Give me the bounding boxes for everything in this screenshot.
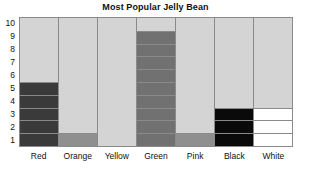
plot-cell-empty — [59, 44, 97, 57]
x-tick-label-red: Red — [19, 149, 58, 169]
plot-cell-empty — [215, 82, 253, 95]
plot-cell-empty — [176, 44, 214, 57]
plot-cell-empty — [254, 95, 292, 108]
bar-segment — [137, 108, 175, 121]
x-tick-label-pink: Pink — [176, 149, 215, 169]
y-tick-label-3: 3 — [0, 110, 15, 119]
plot-cell-empty — [59, 56, 97, 69]
plot-cell-empty — [176, 95, 214, 108]
bar-column-yellow — [98, 18, 137, 146]
plot-cell-empty — [98, 108, 136, 121]
plot-cell-empty — [254, 56, 292, 69]
bar-segment — [254, 133, 292, 146]
plot-cell-empty — [98, 120, 136, 133]
plot-cell-empty — [98, 56, 136, 69]
x-tick-label-white: White — [254, 149, 293, 169]
y-tick-label-4: 4 — [0, 97, 15, 106]
plot-cell-empty — [59, 120, 97, 133]
bar-segment — [59, 133, 97, 146]
bar-column-red — [20, 18, 59, 146]
plot-cell-empty — [254, 82, 292, 95]
plot-cell-empty — [176, 82, 214, 95]
plot-cell-empty — [98, 44, 136, 57]
bar-segment — [20, 133, 58, 146]
bar-column-white — [254, 18, 292, 146]
plot-cell-empty — [215, 95, 253, 108]
bar-segment — [20, 120, 58, 133]
y-tick-label-10: 10 — [0, 19, 15, 28]
y-axis: 10987654321 — [0, 17, 17, 147]
plot-cell-empty — [20, 69, 58, 82]
plot-cell-empty — [254, 18, 292, 31]
x-axis: RedOrangeYellowGreenPinkBlackWhite — [19, 149, 293, 169]
x-tick-label-yellow: Yellow — [97, 149, 136, 169]
plot-cell-empty — [176, 120, 214, 133]
plot-cell-empty — [59, 69, 97, 82]
y-tick-label-2: 2 — [0, 123, 15, 132]
bar-column-pink — [176, 18, 215, 146]
plot-cell-empty — [98, 133, 136, 146]
bar-column-green — [137, 18, 176, 146]
plot-cell-empty — [59, 95, 97, 108]
plot-cell-empty — [254, 31, 292, 44]
chart-title: Most Popular Jelly Bean — [0, 2, 311, 12]
plot-cell-empty — [215, 31, 253, 44]
bar-segment — [137, 82, 175, 95]
plot-cell-empty — [254, 44, 292, 57]
x-tick-label-orange: Orange — [58, 149, 97, 169]
plot-cell-empty — [176, 56, 214, 69]
plot-cell-empty — [254, 69, 292, 82]
plot-cell-empty — [20, 56, 58, 69]
plot-cell-empty — [215, 56, 253, 69]
plot-cell-empty — [20, 31, 58, 44]
bar-segment — [215, 120, 253, 133]
bar-segment — [254, 120, 292, 133]
y-tick-label-1: 1 — [0, 136, 15, 145]
bar-segment — [254, 108, 292, 121]
y-tick-label-8: 8 — [0, 45, 15, 54]
jelly-bean-bar-chart: Most Popular Jelly Bean 10987654321 RedO… — [0, 0, 311, 171]
bar-segment — [137, 56, 175, 69]
plot-cell-empty — [215, 69, 253, 82]
plot-cell-empty — [20, 44, 58, 57]
plot-cell-empty — [98, 95, 136, 108]
x-tick-label-green: Green — [136, 149, 175, 169]
plot-cell-empty — [215, 44, 253, 57]
bar-column-black — [215, 18, 254, 146]
plot-cell-empty — [98, 31, 136, 44]
bar-segment — [20, 95, 58, 108]
bar-segment — [137, 95, 175, 108]
x-tick-label-black: Black — [215, 149, 254, 169]
plot-cell-empty — [176, 108, 214, 121]
bar-segment — [137, 133, 175, 146]
plot-cell-empty — [59, 82, 97, 95]
plot-cell-empty — [20, 18, 58, 31]
plot-area — [19, 17, 293, 147]
bar-segment — [215, 133, 253, 146]
plot-cell-empty — [215, 18, 253, 31]
bar-column-orange — [59, 18, 98, 146]
plot-wrapper — [19, 17, 293, 147]
plot-cell-empty — [59, 31, 97, 44]
plot-cell-empty — [59, 108, 97, 121]
y-tick-label-6: 6 — [0, 71, 15, 80]
plot-cell-empty — [137, 18, 175, 31]
y-tick-label-5: 5 — [0, 84, 15, 93]
plot-cell-empty — [98, 69, 136, 82]
bar-segment — [20, 108, 58, 121]
bar-segment — [137, 69, 175, 82]
plot-cell-empty — [176, 18, 214, 31]
bar-segment — [137, 120, 175, 133]
bar-segment — [215, 108, 253, 121]
bar-segment — [176, 133, 214, 146]
plot-cell-empty — [176, 31, 214, 44]
plot-cell-empty — [59, 18, 97, 31]
bar-segment — [137, 44, 175, 57]
y-tick-label-7: 7 — [0, 58, 15, 67]
y-tick-label-9: 9 — [0, 32, 15, 41]
bar-segment — [137, 31, 175, 44]
plot-cell-empty — [176, 69, 214, 82]
bar-segment — [20, 82, 58, 95]
plot-cell-empty — [98, 82, 136, 95]
plot-cell-empty — [98, 18, 136, 31]
